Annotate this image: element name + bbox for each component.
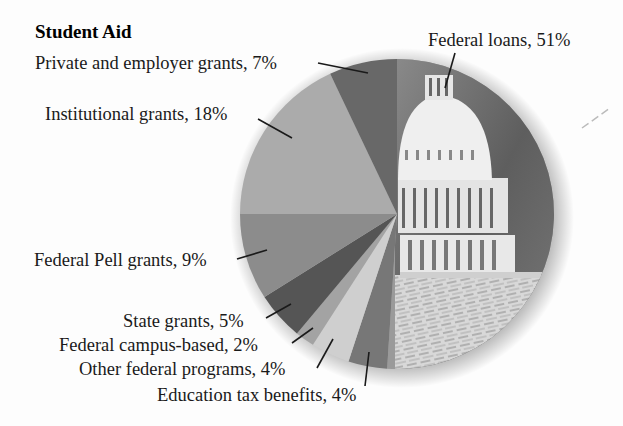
label-federal-pell-grants: Federal Pell grants, 9% — [34, 250, 207, 270]
student-aid-pie-chart: Student Aid Private and employer grants,… — [0, 0, 623, 426]
label-other-federal-programs: Other federal programs, 4% — [79, 359, 286, 379]
label-federal-campus-based: Federal campus-based, 2% — [59, 335, 258, 355]
stray-mark — [582, 108, 610, 128]
label-institutional-grants: Institutional grants, 18% — [45, 104, 227, 124]
label-private-employer-grants: Private and employer grants, 7% — [35, 53, 277, 73]
label-education-tax-benefits: Education tax benefits, 4% — [157, 385, 356, 405]
label-state-grants: State grants, 5% — [123, 311, 244, 331]
chart-title: Student Aid — [35, 21, 132, 42]
capitol-photo-fill — [395, 55, 565, 375]
label-federal-loans: Federal loans, 51% — [428, 30, 570, 50]
